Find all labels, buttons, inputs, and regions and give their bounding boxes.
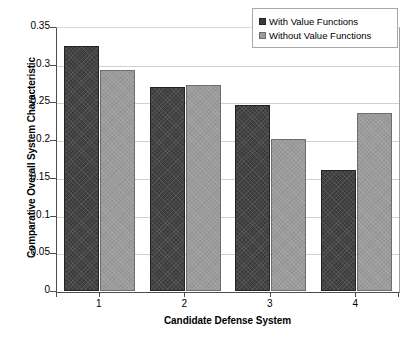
bar xyxy=(64,46,99,291)
x-tick-label: 2 xyxy=(164,298,204,309)
y-tick-mark xyxy=(50,253,56,254)
x-tick-label: 3 xyxy=(250,298,290,309)
x-tick-mark xyxy=(398,292,399,297)
x-tick-mark xyxy=(270,292,271,297)
bar xyxy=(235,105,270,291)
y-tick-mark xyxy=(50,216,56,217)
legend-label-with-value-functions: With Value Functions xyxy=(269,16,358,27)
y-tick-label: 0.3 xyxy=(10,58,50,69)
x-tick-mark xyxy=(355,292,356,297)
y-tick-mark xyxy=(50,27,56,28)
y-tick-mark xyxy=(50,65,56,66)
bar xyxy=(357,113,392,291)
bar xyxy=(321,170,356,291)
y-tick-mark xyxy=(50,102,56,103)
y-tick-label: 0.2 xyxy=(10,133,50,144)
x-tick-mark xyxy=(99,292,100,297)
x-axis-title: Candidate Defense System xyxy=(56,315,399,326)
y-tick-mark xyxy=(50,140,56,141)
y-tick-label: 0.05 xyxy=(10,246,50,257)
x-tick-mark xyxy=(184,292,185,297)
y-tick-mark xyxy=(50,178,56,179)
legend-label-without-value-functions: Without Value Functions xyxy=(269,30,371,41)
legend-item: With Value Functions xyxy=(259,14,393,28)
y-tick-label: 0 xyxy=(10,284,50,295)
legend-swatch-with-value-functions xyxy=(259,18,266,25)
y-tick-label: 0.35 xyxy=(10,20,50,31)
cropped-caption xyxy=(14,331,398,337)
bars-layer xyxy=(57,28,398,291)
bar-chart: Comparative Overall System Characteristi… xyxy=(0,0,409,338)
x-tick-mark xyxy=(56,292,57,297)
legend-item: Without Value Functions xyxy=(259,28,393,42)
bar xyxy=(186,85,221,291)
chart-legend: With Value Functions Without Value Funct… xyxy=(252,8,398,48)
x-tick-label: 1 xyxy=(79,298,119,309)
y-tick-label: 0.25 xyxy=(10,95,50,106)
bar xyxy=(150,87,185,291)
legend-swatch-without-value-functions xyxy=(259,32,266,39)
y-tick-label: 0.1 xyxy=(10,209,50,220)
bar xyxy=(100,70,135,291)
y-tick-label: 0.15 xyxy=(10,171,50,182)
bar xyxy=(271,139,306,291)
x-tick-label: 4 xyxy=(335,298,375,309)
